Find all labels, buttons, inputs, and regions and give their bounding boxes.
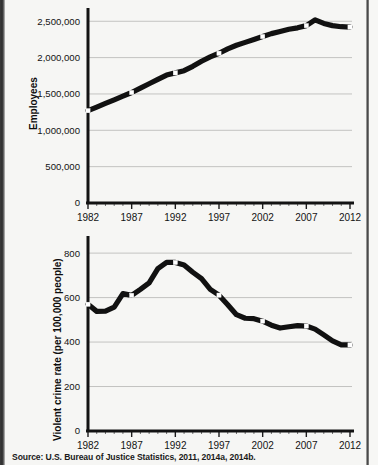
- x-tick-label: 2012: [339, 212, 362, 222]
- data-point-marker: [130, 90, 134, 94]
- page-edge-right: [366, 0, 369, 465]
- employees-chart: Employees 0500,0001,000,0001,500,0002,00…: [0, 0, 366, 222]
- x-tick-label: 2007: [295, 440, 318, 450]
- data-point-marker: [86, 109, 90, 113]
- data-point-marker: [173, 71, 177, 75]
- x-tick-label: 1987: [121, 212, 144, 222]
- data-point-marker: [217, 293, 221, 297]
- data-point-marker: [217, 51, 221, 55]
- employees-y-axis-title: Employees: [28, 77, 39, 130]
- x-tick-label: 1982: [77, 212, 100, 222]
- y-tick-label: 600: [64, 292, 80, 303]
- y-tick-label: 500,000: [45, 161, 80, 172]
- y-tick-label: 2,500,000: [37, 16, 80, 27]
- employees-plot: 0500,0001,000,0001,500,0002,000,0002,500…: [0, 0, 366, 222]
- data-point-marker: [304, 24, 308, 28]
- violent-crime-y-axis-title: Violent crime rate (per 100,000 people): [52, 258, 63, 441]
- x-tick-label: 2012: [339, 440, 362, 450]
- data-point-marker: [261, 34, 265, 38]
- x-tick-label: 1982: [77, 440, 100, 450]
- data-point-marker: [86, 302, 90, 306]
- violent-crime-chart: Violent crime rate (per 100,000 people) …: [0, 228, 366, 450]
- y-tick-label: 400: [64, 336, 80, 347]
- x-tick-label: 2002: [252, 212, 275, 222]
- data-point-marker: [348, 25, 352, 29]
- source-note: Source: U.S. Bureau of Justice Statistic…: [12, 452, 256, 462]
- data-line: [88, 262, 350, 344]
- x-tick-label: 1992: [164, 212, 187, 222]
- x-tick-label: 1997: [208, 440, 231, 450]
- y-tick-label: 200: [64, 381, 80, 392]
- data-line: [88, 20, 350, 111]
- y-tick-label: 0: [75, 425, 80, 436]
- x-tick-label: 1992: [164, 440, 187, 450]
- data-point-marker: [304, 324, 308, 328]
- data-point-marker: [130, 293, 134, 297]
- x-tick-label: 1997: [208, 212, 231, 222]
- x-tick-label: 2007: [295, 212, 318, 222]
- data-point-marker: [348, 343, 352, 347]
- x-tick-label: 2002: [252, 440, 275, 450]
- y-tick-label: 1,500,000: [37, 88, 80, 99]
- x-tick-label: 1987: [121, 440, 144, 450]
- data-point-marker: [173, 260, 177, 264]
- data-point-marker: [261, 319, 265, 323]
- y-tick-label: 2,000,000: [37, 52, 80, 63]
- y-tick-label: 1,000,000: [37, 125, 80, 136]
- y-tick-label: 0: [75, 197, 80, 208]
- figure-page: Employees 0500,0001,000,0001,500,0002,00…: [0, 0, 378, 465]
- y-tick-label: 800: [64, 248, 80, 259]
